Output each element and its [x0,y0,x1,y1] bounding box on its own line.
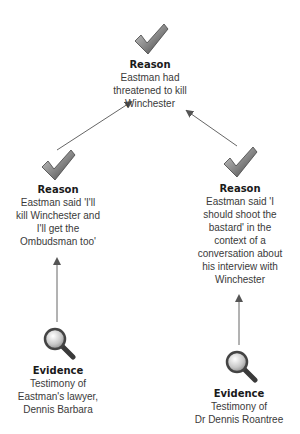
node-text-line: Testimony of [0,377,116,390]
checkmark-icon [222,145,258,179]
node-text-line: Eastman said 'I [180,195,300,208]
node-text-line: Eastman's lawyer, [0,390,116,403]
reason-node-left: Reason Eastman said 'I'll kill Wincheste… [0,183,116,248]
node-text-line: Winchester [90,97,210,110]
magnifier-icon [224,349,258,383]
node-text-line: context of a [180,234,300,247]
node-text-line: I'll get the [0,222,116,235]
evidence-node-right: Evidence Testimony of Dr Dennis Roantree [178,387,300,426]
node-title: Evidence [0,364,116,377]
node-text-line: kill Winchester and [0,209,116,222]
node-text-line: Eastman had [90,71,210,84]
node-title: Reason [90,58,210,71]
node-text-line: should shoot the [180,208,300,221]
node-text-line: Winchester [180,273,300,286]
reason-node-right: Reason Eastman said 'I should shoot the … [180,182,300,286]
node-text-line: Dennis Barbara [0,403,116,416]
checkmark-icon [133,22,169,56]
evidence-node-left: Evidence Testimony of Eastman's lawyer, … [0,364,116,416]
node-text-line: Testimony of [178,400,300,413]
node-text-line: bastard' in the [180,221,300,234]
node-title: Reason [180,182,300,195]
node-text-line: Eastman said 'I'll [0,196,116,209]
reason-node-top: Reason Eastman had threatened to kill Wi… [90,58,210,110]
node-text-line: threatened to kill [90,84,210,97]
node-text-line: Ombudsman too' [0,235,116,248]
node-title: Evidence [178,387,300,400]
magnifier-icon [42,326,76,360]
checkmark-icon [40,148,76,182]
node-title: Reason [0,183,116,196]
node-text-line: Dr Dennis Roantree [178,413,300,426]
edge-right-reason-to-top [187,111,237,146]
node-text-line: his interview with [180,260,300,273]
node-text-line: conversation about [180,247,300,260]
